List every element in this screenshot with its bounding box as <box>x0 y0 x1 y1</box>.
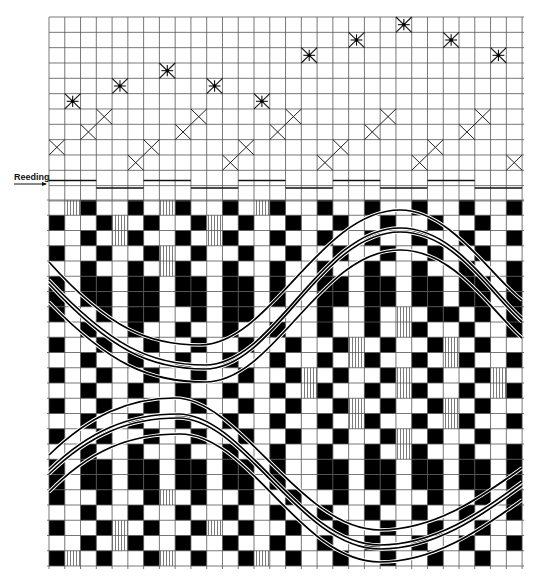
cell-black <box>427 292 443 307</box>
cell-black <box>270 536 286 551</box>
x-mark-icon <box>333 140 349 155</box>
x-mark-icon <box>459 124 475 139</box>
cell-black <box>286 337 302 352</box>
x-mark-icon <box>191 109 207 124</box>
cell-hatched <box>349 414 365 429</box>
cell-black <box>238 551 254 566</box>
cell-black <box>96 246 112 261</box>
cell-black <box>270 353 286 368</box>
cell-black <box>317 414 333 429</box>
cell-black <box>317 383 333 398</box>
cell-black <box>238 475 254 490</box>
cell-black <box>412 322 428 337</box>
cell-black <box>128 383 144 398</box>
cell-black <box>475 429 491 444</box>
cell-black <box>96 551 112 566</box>
cell-black <box>96 276 112 291</box>
cell-black <box>412 505 428 520</box>
cell-black <box>175 261 191 276</box>
cell-black <box>317 459 333 474</box>
cell-black <box>286 398 302 413</box>
x-mark-icon <box>380 109 396 124</box>
cell-hatched <box>349 337 365 352</box>
x-mark-icon <box>96 109 112 124</box>
cell-black <box>333 459 349 474</box>
cell-black <box>333 429 349 444</box>
cell-black <box>191 475 207 490</box>
cell-black <box>475 459 491 474</box>
cell-black <box>317 353 333 368</box>
cell-black <box>222 505 238 520</box>
star-mark-icon <box>491 48 507 63</box>
cell-black <box>506 414 522 429</box>
cell-black <box>475 215 491 230</box>
cell-black <box>191 215 207 230</box>
cell-hatched <box>159 200 175 215</box>
cell-black <box>81 505 97 520</box>
cell-black <box>49 520 65 535</box>
cell-black <box>380 459 396 474</box>
cell-hatched <box>254 551 270 566</box>
cell-black <box>49 246 65 261</box>
cell-black <box>81 231 97 246</box>
cell-hatched <box>112 231 128 246</box>
cell-black <box>81 276 97 291</box>
cell-black <box>238 246 254 261</box>
cell-black <box>238 307 254 322</box>
cell-black <box>475 475 491 490</box>
cell-hatched <box>207 231 223 246</box>
cell-black <box>128 505 144 520</box>
cell-hatched <box>301 383 317 398</box>
cell-black <box>459 353 475 368</box>
cell-black <box>270 383 286 398</box>
cell-hatched <box>443 353 459 368</box>
cell-black <box>175 459 191 474</box>
cell-black <box>364 322 380 337</box>
cell-black <box>427 490 443 505</box>
cell-black <box>506 444 522 459</box>
cell-black <box>380 490 396 505</box>
cell-black <box>333 475 349 490</box>
cell-black <box>175 475 191 490</box>
cell-black <box>459 475 475 490</box>
cell-black <box>459 383 475 398</box>
cell-black <box>222 536 238 551</box>
cell-black <box>49 551 65 566</box>
cell-black <box>144 246 160 261</box>
star-mark-icon <box>112 78 128 93</box>
cell-black <box>427 368 443 383</box>
cell-black <box>144 520 160 535</box>
cell-black <box>317 322 333 337</box>
star-mark-icon <box>159 63 175 78</box>
cell-hatched <box>65 551 81 566</box>
cell-black <box>49 398 65 413</box>
cell-black <box>412 414 428 429</box>
cell-black <box>222 383 238 398</box>
cell-black <box>128 475 144 490</box>
x-mark-icon <box>286 109 302 124</box>
cell-black <box>81 475 97 490</box>
cell-hatched <box>112 536 128 551</box>
cell-black <box>96 490 112 505</box>
cell-hatched <box>112 520 128 535</box>
cell-black <box>506 536 522 551</box>
cell-black <box>286 551 302 566</box>
cell-black <box>364 261 380 276</box>
cell-black <box>380 337 396 352</box>
cell-black <box>459 414 475 429</box>
cell-black <box>144 551 160 566</box>
cell-hatched <box>396 307 412 322</box>
cell-black <box>427 429 443 444</box>
cell-black <box>222 292 238 307</box>
cell-black <box>238 292 254 307</box>
cell-black <box>49 337 65 352</box>
cell-hatched <box>254 200 270 215</box>
x-mark-icon <box>427 140 443 155</box>
x-mark-icon <box>364 124 380 139</box>
cell-black <box>427 276 443 291</box>
cell-black <box>144 490 160 505</box>
cell-black <box>270 459 286 474</box>
cell-black <box>506 261 522 276</box>
x-mark-icon <box>506 155 522 170</box>
cell-hatched <box>396 383 412 398</box>
